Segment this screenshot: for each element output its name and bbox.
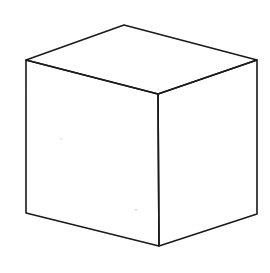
cube-diagram: [0, 0, 270, 273]
cube-drawing: [0, 0, 270, 273]
paper-speck: [135, 209, 136, 210]
cube-right-face: [158, 60, 257, 246]
paper-speck: [60, 138, 61, 139]
cube-top-face: [26, 25, 257, 94]
cube-left-face: [26, 60, 159, 246]
